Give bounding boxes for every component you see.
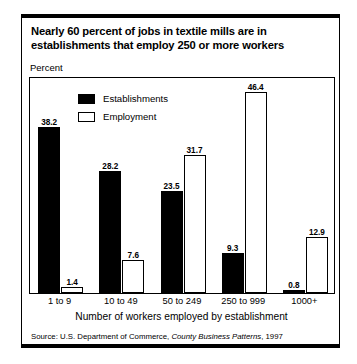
source-publication: County Business Patterns: [171, 332, 261, 341]
source-note: Source: U.S. Department of Commerce, Cou…: [31, 332, 283, 341]
bar-value-label: 9.3: [227, 244, 238, 253]
bar-value-label: 7.6: [128, 251, 139, 260]
x-axis-tick-labels: 1 to 910 to 4950 to 249250 to 9991000+: [22, 296, 341, 310]
source-suffix: , 1997: [261, 332, 283, 341]
bar-establishments-10-to-49: 28.2: [99, 171, 121, 293]
bar-establishments-50-to-249: 23.5: [161, 191, 183, 293]
x-tick-label-250-to-999: 250 to 999: [221, 296, 265, 306]
bar-value-label: 46.4: [248, 83, 264, 92]
bar-employment-1000+: 12.9: [306, 237, 328, 293]
bar-value-label: 1.4: [66, 278, 77, 287]
plot-area: Establishments Employment 38.21.428.27.6…: [29, 77, 335, 294]
bar-value-label: 0.8: [288, 281, 299, 290]
bar-establishments-1000+: 0.8: [283, 290, 305, 293]
chart-title-line-2: establishments that employ 250 or more w…: [31, 39, 330, 53]
x-tick-label-1000+: 1000+: [291, 296, 317, 306]
bar-value-label: 38.2: [41, 118, 57, 127]
bar-employment-1-to-9: 1.4: [61, 287, 83, 293]
figure-panel: Nearly 60 percent of jobs in textile mil…: [21, 14, 340, 348]
bar-employment-250-to-999: 46.4: [245, 92, 267, 293]
bar-series-container: 38.21.428.27.623.531.79.346.40.812.9: [30, 78, 334, 293]
bar-employment-10-to-49: 7.6: [122, 260, 144, 293]
bar-value-label: 23.5: [164, 182, 180, 191]
x-tick-label-1-to-9: 1 to 9: [48, 296, 71, 306]
bar-value-label: 28.2: [102, 162, 118, 171]
x-axis-title: Number of workers employed by establishm…: [22, 311, 341, 322]
y-axis-label: Percent: [30, 62, 63, 73]
bar-establishments-1-to-9: 38.2: [38, 127, 60, 293]
x-tick-label-10-to-49: 10 to 49: [104, 296, 138, 306]
bar-value-label: 31.7: [187, 146, 203, 155]
chart-title: Nearly 60 percent of jobs in textile mil…: [22, 18, 339, 57]
source-prefix: Source: U.S. Department of Commerce,: [31, 332, 171, 341]
bar-employment-50-to-249: 31.7: [184, 155, 206, 293]
bar-establishments-250-to-999: 9.3: [222, 253, 244, 293]
bar-value-label: 12.9: [309, 228, 325, 237]
x-tick-label-50-to-249: 50 to 249: [163, 296, 202, 306]
chart-title-line-1: Nearly 60 percent of jobs in textile mil…: [31, 25, 330, 39]
